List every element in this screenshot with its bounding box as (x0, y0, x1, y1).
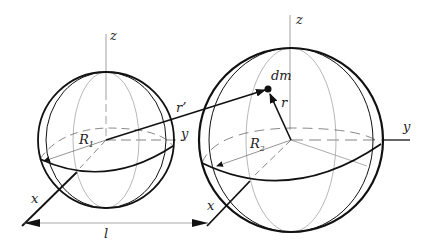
sphere-1 (22, 34, 186, 226)
label-dm: dm (271, 68, 292, 83)
label-R2: R2 (249, 136, 265, 153)
label-y2: y (402, 119, 411, 134)
label-x1: x (31, 191, 39, 206)
label-l: l (104, 226, 108, 241)
label-z1: z (109, 28, 117, 43)
sphere-2 (199, 15, 410, 232)
label-r-prime: r’ (176, 100, 186, 115)
mass-element-dm (265, 86, 272, 93)
label-x2: x (207, 198, 215, 213)
two-spheres-diagram: z y x R1 r’ z y x R2 dm r l (0, 0, 434, 249)
label-z2: z (295, 12, 303, 27)
label-r: r (281, 95, 288, 110)
label-y1: y (180, 126, 189, 141)
label-R1: R1 (78, 132, 94, 149)
